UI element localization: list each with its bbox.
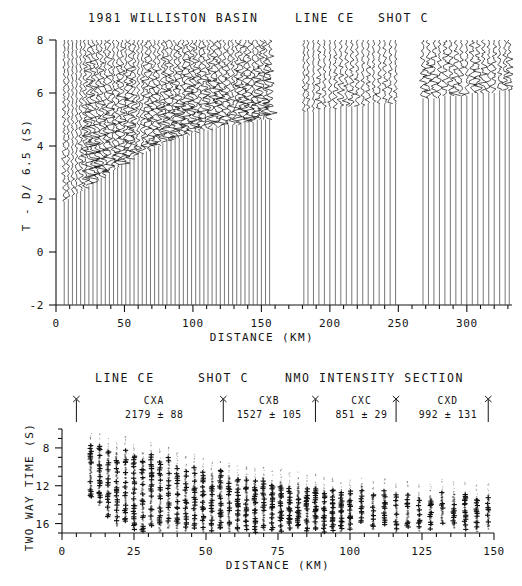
- intensity-marker-faint: [194, 456, 195, 457]
- trace-wiggle: [75, 40, 78, 194]
- intensity-marker-faint: [99, 433, 100, 434]
- trace-wiggle: [458, 40, 465, 96]
- intensity-marker-faint: [168, 450, 169, 451]
- intensity-marker-faint: [151, 444, 152, 445]
- intensity-marker-faint: [194, 461, 195, 462]
- trace-wiggle: [465, 40, 470, 96]
- intensity-marker-faint: [203, 469, 204, 470]
- intensity-marker-faint: [395, 483, 396, 484]
- bottom-y-tick-label: 12: [36, 480, 50, 493]
- intensity-marker-faint: [99, 438, 100, 439]
- intensity-marker-faint: [116, 452, 117, 453]
- intensity-marker-faint: [487, 484, 488, 485]
- intensity-marker-faint: [90, 438, 91, 439]
- intensity-marker-faint: [142, 458, 143, 459]
- trace-wiggle: [478, 40, 487, 93]
- intensity-marker-faint: [186, 464, 187, 465]
- intensity-marker-faint: [108, 448, 109, 449]
- intensity-marker-faint: [176, 454, 177, 455]
- intensity-marker-faint: [341, 489, 342, 490]
- intensity-marker-faint: [160, 451, 161, 452]
- intensity-marker-faint: [108, 450, 109, 451]
- intensity-marker-faint: [202, 470, 203, 471]
- intensity-marker-faint: [271, 482, 272, 483]
- top-y-tick-label: 0: [37, 246, 44, 259]
- top-y-ticks: 86420-2: [30, 34, 56, 312]
- intensity-marker-faint: [108, 443, 109, 444]
- bottom-x-tick-label: 0: [58, 545, 65, 558]
- intensity-marker-faint: [418, 494, 419, 495]
- trace-wiggle: [382, 40, 388, 104]
- intensity-marker-faint: [150, 450, 151, 451]
- intensity-marker-faint: [133, 444, 134, 445]
- intensity-marker-faint: [263, 473, 264, 474]
- intensity-marker-faint: [323, 487, 324, 488]
- intensity-marker-faint: [464, 482, 465, 483]
- intensity-marker-faint: [332, 486, 333, 487]
- segment-name: CXD: [438, 395, 459, 406]
- intensity-marker-faint: [315, 475, 316, 476]
- bottom-x-tick-label: 150: [483, 545, 505, 558]
- intensity-marker-faint: [465, 491, 466, 492]
- intensity-marker-faint: [476, 496, 477, 497]
- intensity-marker-faint: [212, 462, 213, 463]
- intensity-marker-faint: [177, 463, 178, 464]
- intensity-marker-faint: [150, 453, 151, 454]
- intensity-marker-faint: [271, 480, 272, 481]
- intensity-marker-faint: [185, 457, 186, 458]
- trace-wiggle: [305, 40, 310, 112]
- intensity-marker-faint: [362, 486, 363, 487]
- trace-wiggle: [153, 40, 163, 146]
- trace-wiggle: [78, 40, 84, 191]
- intensity-marker-faint: [237, 472, 238, 473]
- bottom-title-mid: SHOT C: [198, 371, 249, 385]
- intensity-marker-faint: [407, 493, 408, 494]
- intensity-marker-faint: [476, 489, 477, 490]
- intensity-marker-faint: [133, 450, 134, 451]
- intensity-marker-faint: [332, 480, 333, 481]
- intensity-marker-faint: [160, 458, 161, 459]
- intensity-marker-faint: [332, 481, 333, 482]
- intensity-marker-faint: [373, 488, 374, 489]
- intensity-marker-faint: [160, 461, 161, 462]
- intensity-marker-faint: [340, 482, 341, 483]
- trace-wiggle: [441, 40, 449, 96]
- segment-value: 2179 ± 88: [125, 409, 183, 420]
- intensity-marker-faint: [350, 486, 351, 487]
- intensity-marker-faint: [477, 493, 478, 494]
- intensity-marker-faint: [430, 495, 431, 496]
- trace-wiggle: [62, 40, 67, 202]
- intensity-marker-faint: [349, 491, 350, 492]
- segment-value: 992 ± 131: [419, 409, 477, 420]
- intensity-marker-faint: [272, 471, 273, 472]
- intensity-marker-faint: [350, 480, 351, 481]
- bottom-x-tick-label: 125: [411, 545, 433, 558]
- intensity-marker-faint: [220, 461, 221, 462]
- intensity-marker-faint: [211, 469, 212, 470]
- intensity-marker-faint: [453, 482, 454, 483]
- trace-wiggle: [448, 40, 455, 96]
- intensity-marker-faint: [453, 481, 454, 482]
- trace-wiggle: [436, 40, 442, 98]
- bottom-x-tick-label: 25: [127, 545, 141, 558]
- intensity-marker-faint: [159, 452, 160, 453]
- intensity-marker-faint: [125, 440, 126, 441]
- intensity-marker-faint: [272, 474, 273, 475]
- intensity-marker-faint: [168, 448, 169, 449]
- top-y-tick-label: 8: [37, 34, 44, 47]
- intensity-marker-faint: [202, 466, 203, 467]
- intensity-marker-faint: [442, 489, 443, 490]
- bottom-x-tick-label: 50: [199, 545, 213, 558]
- intensity-marker-faint: [246, 474, 247, 475]
- intensity-marker-faint: [349, 484, 350, 485]
- intensity-marker-faint: [476, 485, 477, 486]
- intensity-marker-faint: [238, 474, 239, 475]
- intensity-marker-faint: [288, 483, 289, 484]
- trace-wiggle: [450, 40, 461, 96]
- intensity-marker-faint: [488, 495, 489, 496]
- trace-wiggle: [365, 40, 371, 104]
- intensity-marker-faint: [307, 480, 308, 481]
- intensity-marker-faint: [90, 443, 91, 444]
- trace-wiggle: [354, 40, 360, 106]
- segment-name: CXB: [259, 395, 280, 406]
